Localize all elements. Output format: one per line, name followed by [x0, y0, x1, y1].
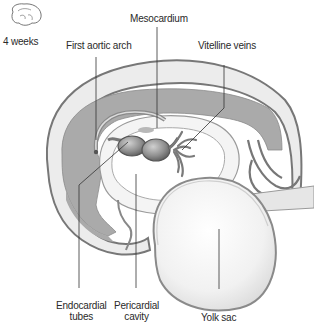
embryo-diagram [0, 0, 314, 326]
label-pericardial-cavity: Pericardial cavity [114, 300, 159, 322]
label-yolk-sac: Yolk sac [201, 312, 236, 323]
label-mesocardium: Mesocardium [130, 13, 188, 24]
mesocardium-region [138, 127, 154, 133]
stage-label: 4 weeks [3, 36, 38, 47]
embryo-thumbnail-icon [12, 4, 41, 25]
label-endocardial-line2: tubes [56, 311, 107, 322]
yolk-sac [154, 178, 276, 311]
label-vitelline-veins: Vitelline veins [198, 40, 256, 51]
label-pericardial-line2: cavity [114, 311, 159, 322]
label-pericardial-line1: Pericardial [114, 300, 159, 311]
label-first-aortic-arch: First aortic arch [66, 40, 132, 51]
label-endocardial-line1: Endocardial [56, 300, 107, 311]
label-endocardial-tubes: Endocardial tubes [56, 300, 107, 322]
